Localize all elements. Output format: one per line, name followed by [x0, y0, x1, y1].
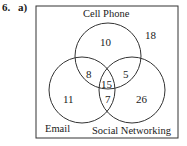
region-email-only: 11 — [63, 94, 74, 105]
region-cell-social: 5 — [123, 69, 129, 80]
universal-set-box — [36, 6, 178, 138]
region-email-social: 7 — [105, 94, 111, 105]
label-email: Email — [45, 124, 70, 135]
label-social-networking: Social Networking — [92, 126, 171, 137]
label-cell-phone: Cell Phone — [83, 9, 129, 20]
region-all-three: 15 — [101, 79, 112, 90]
circle-social-networking — [99, 57, 165, 123]
region-cell-email: 8 — [86, 69, 92, 80]
region-social-only: 26 — [136, 94, 147, 105]
region-cell-only: 10 — [100, 37, 111, 48]
region-outside: 18 — [145, 30, 156, 41]
circle-email — [49, 57, 115, 123]
